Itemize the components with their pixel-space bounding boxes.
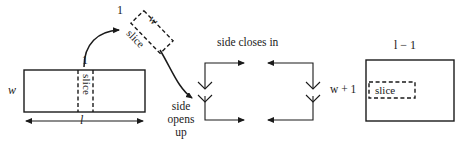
right-bracket-group — [268, 63, 320, 120]
extract-slice-arrow — [84, 30, 119, 67]
original-width-label: w — [8, 83, 16, 98]
side-closes-in-label: side closes in — [217, 36, 278, 48]
figure-canvas: w l 1 slice 1 w slice side opens up side… — [0, 0, 468, 144]
side-opens-up-line-3: up — [160, 126, 202, 139]
original-length-label: l — [80, 113, 83, 128]
left-bracket-group — [198, 63, 244, 120]
original-slice-label: slice — [79, 74, 93, 112]
left-bracket-bottom-arm — [205, 96, 244, 120]
result-slice-label: slice — [375, 84, 395, 96]
side-opens-up-label: side opens up — [160, 100, 202, 139]
side-opens-up-line-1: side — [160, 100, 202, 113]
left-bracket-top-arm — [205, 63, 244, 88]
tilted-slice-short-side-label: 1 — [117, 3, 123, 18]
insert-slice-arrow — [160, 50, 192, 98]
result-left-label: w + 1 — [330, 83, 356, 95]
diagram-svg — [0, 0, 468, 144]
result-top-label: l − 1 — [394, 38, 416, 53]
side-opens-up-line-2: opens — [160, 113, 202, 126]
right-bracket-bottom-arm — [268, 96, 313, 120]
right-bracket-top-arm — [268, 63, 313, 88]
original-slice-width-label: 1 — [82, 53, 88, 68]
